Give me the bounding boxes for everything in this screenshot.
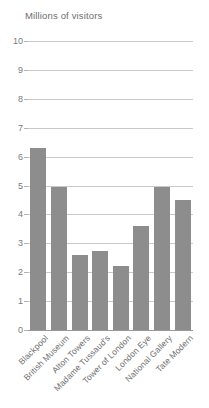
y-axis-tick-label: 0 (18, 325, 23, 335)
bar-chart: Millions of visitors 012345678910 Blackp… (0, 0, 209, 408)
plot-area: 012345678910 (28, 41, 193, 330)
tick-mark (24, 330, 28, 331)
bar (154, 187, 170, 330)
bar (113, 266, 129, 330)
x-axis-labels: BlackpoolBritish MuseumAlton TowersMadam… (28, 333, 203, 408)
y-axis-tick-label: 3 (18, 238, 23, 248)
bars-group (28, 41, 193, 330)
bar (30, 148, 46, 330)
y-axis-tick-label: 4 (18, 209, 23, 219)
y-axis-tick-label: 8 (18, 94, 23, 104)
chart-title: Millions of visitors (25, 10, 102, 21)
y-axis-tick-label: 1 (18, 296, 23, 306)
y-axis-tick-label: 6 (18, 152, 23, 162)
bar (51, 187, 67, 330)
y-axis-tick-label: 5 (18, 181, 23, 191)
bar (133, 226, 149, 330)
bar (92, 251, 108, 330)
bar (175, 200, 191, 330)
y-axis-tick-label: 9 (18, 65, 23, 75)
bar (72, 255, 88, 330)
y-axis-tick-label: 7 (18, 123, 23, 133)
y-axis-tick-label: 10 (13, 36, 23, 46)
axis-baseline (28, 330, 193, 331)
y-axis-tick-label: 2 (18, 267, 23, 277)
